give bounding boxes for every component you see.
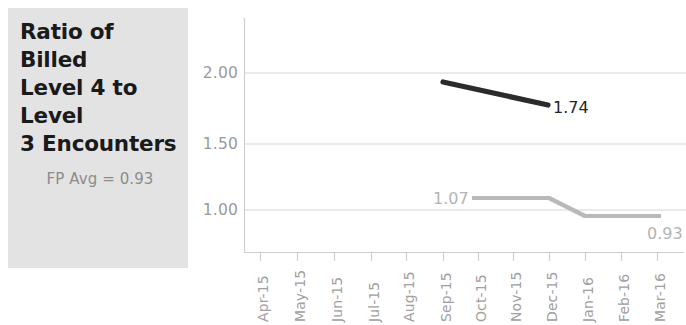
x-tick-label-may-15: May-15 [292, 270, 308, 322]
data-label-fp-average-0-93: 0.93 [647, 224, 683, 243]
x-tick-label-aug-15: Aug-15 [401, 271, 417, 322]
x-tick-label-apr-15: Apr-15 [255, 275, 271, 322]
x-tick-label-jul-15: Jul-15 [366, 282, 382, 322]
y-tick-label-1-50: 1.50 [186, 135, 238, 153]
x-tick-label-jun-15: Jun-15 [329, 277, 345, 322]
line-chart: 2.00 1.50 1.00 Apr-15 May-15 Jun-15 Jul-… [0, 0, 686, 325]
x-tick-label-oct-15: Oct-15 [473, 274, 489, 322]
series-line-fp-average [472, 198, 661, 216]
y-tick-label-2-00: 2.00 [186, 64, 238, 82]
x-tick-label-nov-15: Nov-15 [508, 272, 524, 322]
x-tick-label-jan-16: Jan-16 [580, 277, 596, 322]
data-label-fp-average-1-07: 1.07 [433, 189, 469, 208]
x-tick-label-sep-15: Sep-15 [438, 272, 454, 322]
data-label-provider-1-74: 1.74 [553, 98, 589, 117]
x-tick-label-feb-16: Feb-16 [616, 274, 632, 322]
x-tick-label-mar-16: Mar-16 [652, 273, 668, 322]
x-axis [244, 252, 684, 261]
y-tick-label-1-00: 1.00 [186, 201, 238, 219]
series-line-provider [443, 82, 548, 105]
x-tick-label-dec-15: Dec-15 [544, 271, 560, 322]
